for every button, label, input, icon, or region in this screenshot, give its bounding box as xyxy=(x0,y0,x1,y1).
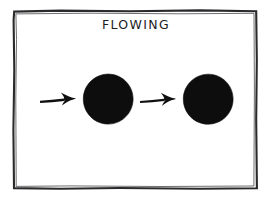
blob-1 xyxy=(83,74,133,124)
arrow-1 xyxy=(40,93,76,106)
diagram-canvas: FLOWING xyxy=(0,0,272,203)
diagram-title: FLOWING xyxy=(0,18,272,32)
blob-2 xyxy=(183,74,233,124)
arrow-2 xyxy=(140,93,176,106)
